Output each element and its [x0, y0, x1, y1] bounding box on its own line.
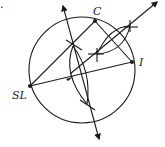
corner-mark: .	[0, 0, 4, 11]
label-sl: SL	[12, 89, 27, 102]
side-sl-c	[30, 21, 95, 86]
point-sl	[28, 84, 32, 88]
point-i	[130, 60, 134, 64]
perpendicular-bisector-1	[63, 6, 99, 139]
diagram-canvas: . C I SL	[0, 0, 165, 147]
label-i: I	[138, 56, 144, 69]
label-c: C	[93, 5, 102, 18]
point-c	[93, 19, 97, 23]
